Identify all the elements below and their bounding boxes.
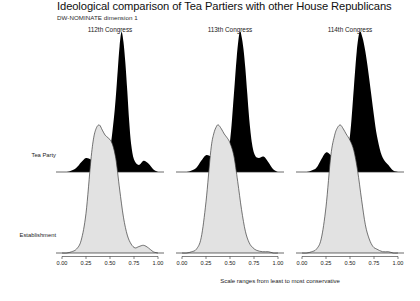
axis-tick-label: 0.25 — [201, 260, 212, 266]
axis-tick-label: 0.75 — [129, 260, 140, 266]
axis-tick-label: 1.00 — [393, 260, 404, 266]
density-area-establishment — [302, 125, 398, 253]
axis-caption: Scale ranges from least to most conserva… — [0, 278, 420, 284]
axis-tick-label: 0.50 — [105, 260, 116, 266]
density-area-establishment — [62, 125, 158, 253]
axis-tick-label: 0.50 — [345, 260, 356, 266]
panel-group — [176, 31, 284, 253]
axis-tick-label: 0.50 — [225, 260, 236, 266]
axis-tick-label: 0.75 — [249, 260, 260, 266]
density-area-establishment — [182, 125, 278, 253]
axis-tick-label: 0.25 — [81, 260, 92, 266]
panel-group — [56, 32, 164, 253]
panel-group — [296, 31, 404, 253]
axis-tick-label: 1.00 — [273, 260, 284, 266]
axis-caption-text: Scale ranges from least to most conserva… — [220, 278, 340, 284]
axis-tick-label: 0.00 — [57, 260, 68, 266]
density-plot-canvas — [0, 0, 420, 301]
axis-tick-label: 0.00 — [297, 260, 308, 266]
axis-tick-label: 0.00 — [177, 260, 188, 266]
axis-tick-label: 0.25 — [321, 260, 332, 266]
axis-tick-label: 0.75 — [369, 260, 380, 266]
axis-tick-label: 1.00 — [153, 260, 164, 266]
chart-figure: Ideological comparison of Tea Partiers w… — [0, 0, 420, 301]
